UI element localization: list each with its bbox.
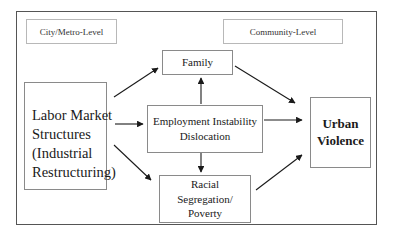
arrow-family-to-violence xyxy=(235,66,295,103)
arrow-labor-to-family xyxy=(114,68,158,97)
arrow-labor-to-racial xyxy=(114,145,151,180)
arrow-racial-to-violence xyxy=(256,155,302,190)
arrows-layer xyxy=(0,0,394,239)
